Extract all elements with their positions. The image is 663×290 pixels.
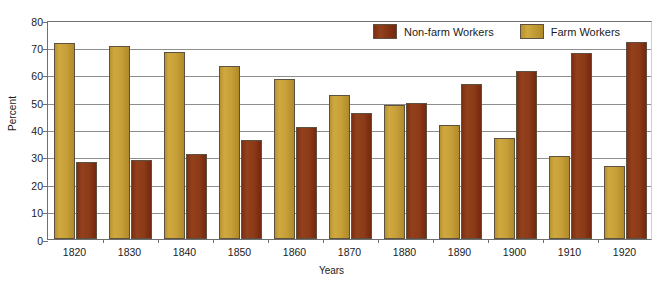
x-tick-mark [158, 239, 159, 243]
bar-farm-1840 [164, 52, 185, 239]
y-tick-label: 30 [31, 152, 43, 164]
y-tick-label: 0 [37, 235, 43, 247]
x-tick-mark [598, 239, 599, 243]
x-axis-title: Years [0, 265, 663, 276]
y-tick-label: 80 [31, 16, 43, 28]
y-tick-label: 50 [31, 98, 43, 110]
bar-chart: Percent 01020304050607080 Years Non-farm… [0, 0, 663, 290]
legend-swatch [520, 24, 544, 39]
x-tick-mark [488, 239, 489, 243]
bar-farm-1850 [219, 66, 240, 239]
x-tick-mark [213, 239, 214, 243]
bar-nonfarm-1850 [241, 140, 262, 239]
legend-item-nonfarm[interactable]: Non-farm Workers [373, 24, 494, 39]
legend-swatch [373, 24, 397, 39]
bar-farm-1910 [549, 156, 570, 239]
y-tick-mark [43, 22, 48, 23]
x-tick-mark [103, 239, 104, 243]
bar-nonfarm-1890 [461, 84, 482, 239]
x-tick-label-1870: 1870 [338, 246, 361, 258]
chart-legend: Non-farm WorkersFarm Workers [373, 24, 620, 39]
x-tick-mark [433, 239, 434, 243]
y-tick-label: 70 [31, 43, 43, 55]
bar-nonfarm-1830 [131, 160, 152, 239]
y-tick-mark [43, 131, 48, 132]
legend-label: Non-farm Workers [404, 26, 494, 38]
y-tick-label: 20 [31, 180, 43, 192]
y-tick-label: 60 [31, 70, 43, 82]
y-tick-label: 40 [31, 125, 43, 137]
x-tick-label-1830: 1830 [118, 246, 141, 258]
gridline [48, 76, 651, 77]
y-tick-mark [43, 186, 48, 187]
y-tick-mark [43, 49, 48, 50]
x-tick-label-1890: 1890 [448, 246, 471, 258]
x-tick-mark [378, 239, 379, 243]
x-tick-label-1900: 1900 [503, 246, 526, 258]
bar-farm-1900 [494, 138, 515, 239]
bar-farm-1820 [54, 43, 75, 239]
gridline [48, 49, 651, 50]
x-tick-mark [323, 239, 324, 243]
bar-nonfarm-1900 [516, 71, 537, 239]
x-tick-label-1920: 1920 [613, 246, 636, 258]
x-tick-label-1850: 1850 [228, 246, 251, 258]
x-tick-label-1880: 1880 [393, 246, 416, 258]
bar-farm-1870 [329, 95, 350, 239]
legend-item-farm[interactable]: Farm Workers [520, 24, 620, 39]
x-tick-label-1820: 1820 [63, 246, 86, 258]
y-tick-mark [43, 104, 48, 105]
y-tick-mark [43, 213, 48, 214]
x-tick-mark [268, 239, 269, 243]
bar-nonfarm-1840 [186, 154, 207, 239]
y-tick-mark [43, 76, 48, 77]
y-tick-label: 10 [31, 207, 43, 219]
bar-farm-1920 [604, 166, 625, 239]
legend-label: Farm Workers [551, 26, 620, 38]
plot-area: 01020304050607080 [47, 21, 652, 240]
bar-nonfarm-1870 [351, 113, 372, 239]
bar-nonfarm-1910 [571, 53, 592, 239]
bar-nonfarm-1920 [626, 42, 647, 239]
bar-farm-1890 [439, 125, 460, 239]
x-tick-label-1860: 1860 [283, 246, 306, 258]
bar-nonfarm-1820 [76, 162, 97, 239]
x-tick-label-1840: 1840 [173, 246, 196, 258]
y-tick-mark [43, 241, 48, 242]
bar-farm-1860 [274, 79, 295, 239]
bar-nonfarm-1880 [406, 103, 427, 239]
y-axis-title: Percent [7, 79, 18, 149]
bar-farm-1830 [109, 46, 130, 239]
x-tick-mark [543, 239, 544, 243]
y-tick-mark [43, 158, 48, 159]
bar-farm-1880 [384, 105, 405, 239]
bar-nonfarm-1860 [296, 127, 317, 239]
x-tick-label-1910: 1910 [558, 246, 581, 258]
